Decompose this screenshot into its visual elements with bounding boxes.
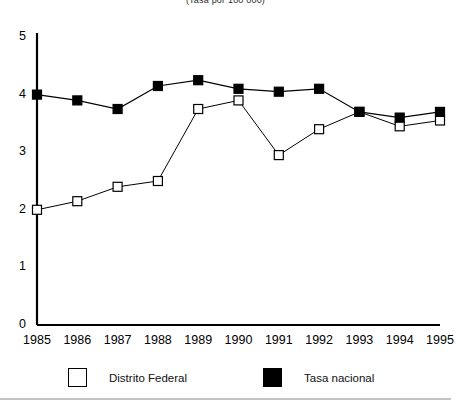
x-tick-1991: 1991 <box>259 333 299 347</box>
x-tick-1990: 1990 <box>219 333 259 347</box>
x-tick-1987: 1987 <box>98 333 138 347</box>
y-tick-4: 4 <box>8 87 26 101</box>
open-square-marker-icon <box>68 368 87 387</box>
legend-label-tasa-nacional: Tasa nacional <box>304 372 374 384</box>
data-point <box>234 84 243 93</box>
x-tick-1988: 1988 <box>138 333 178 347</box>
data-point <box>73 197 82 206</box>
legend-item-tasa-nacional: Tasa nacional <box>263 368 374 387</box>
data-point <box>153 177 162 186</box>
x-tick-1992: 1992 <box>299 333 339 347</box>
data-point <box>234 96 243 105</box>
data-point <box>274 87 283 96</box>
y-tick-5: 5 <box>8 29 26 43</box>
series-layer <box>33 76 445 215</box>
x-tick-1986: 1986 <box>57 333 97 347</box>
x-tick-1995: 1995 <box>420 333 458 347</box>
data-point <box>153 82 162 91</box>
y-tick-1: 1 <box>8 259 26 273</box>
data-point <box>73 96 82 105</box>
data-point <box>436 107 445 116</box>
y-tick-0: 0 <box>8 317 26 331</box>
y-tick-2: 2 <box>8 202 26 216</box>
data-point <box>113 182 122 191</box>
legend-label-distrito-federal: Distrito Federal <box>109 372 187 384</box>
filled-square-marker-icon <box>263 368 282 387</box>
data-point <box>315 84 324 93</box>
chart-legend: Distrito Federal Tasa nacional <box>0 364 451 398</box>
series-line <box>37 100 440 209</box>
data-point <box>194 105 203 114</box>
data-point <box>113 105 122 114</box>
data-point <box>274 151 283 160</box>
x-tick-1985: 1985 <box>17 333 57 347</box>
series-distrito-federal <box>33 96 445 214</box>
x-tick-1989: 1989 <box>178 333 218 347</box>
data-point <box>315 125 324 134</box>
data-point <box>436 116 445 125</box>
data-point <box>33 205 42 214</box>
data-point <box>395 122 404 131</box>
legend-item-distrito-federal: Distrito Federal <box>68 368 187 387</box>
data-point <box>33 90 42 99</box>
y-tick-3: 3 <box>8 144 26 158</box>
data-point <box>395 113 404 122</box>
data-point <box>194 76 203 85</box>
x-tick-1993: 1993 <box>339 333 379 347</box>
data-point <box>355 107 364 116</box>
x-tick-1994: 1994 <box>380 333 420 347</box>
